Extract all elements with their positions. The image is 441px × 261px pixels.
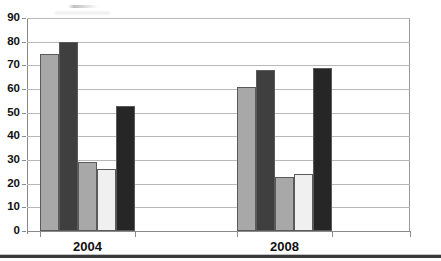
y-tick-label-60: 60 [0, 83, 20, 94]
bar-2004-series-2 [59, 42, 78, 231]
page-bottom-edge [0, 255, 441, 258]
scan-artifact-smudge [68, 5, 98, 8]
y-tick-mark-70 [22, 65, 26, 66]
y-tick-mark-90 [22, 18, 26, 19]
y-tick-mark-40 [22, 136, 26, 137]
y-tick-label-30: 30 [0, 154, 20, 165]
bar-2008-series-1 [237, 87, 256, 231]
gridline-30 [27, 160, 410, 161]
bar-2004-series-4 [97, 169, 116, 231]
bar-2008-series-3 [275, 177, 294, 231]
y-tick-mark-50 [22, 113, 26, 114]
bar-2004-series-1 [40, 54, 59, 232]
chart-screenshot: 9080706050403020100 20042008 [0, 0, 441, 261]
bar-2004-series-5 [116, 106, 135, 231]
plot-area [27, 18, 410, 231]
scan-artifact-line [55, 12, 110, 14]
x-tick-mark-axis-end [410, 232, 411, 237]
y-tick-label-50: 50 [0, 107, 20, 118]
y-tick-label-70: 70 [0, 59, 20, 70]
y-axis-labels: 9080706050403020100 [0, 0, 20, 261]
y-tick-mark-10 [22, 207, 26, 208]
x-axis-label-2008: 2008 [217, 239, 352, 254]
x-tick-mark-2008-end [332, 232, 333, 237]
x-tick-mark-2008-start [237, 232, 238, 237]
x-tick-mark-2004-end [135, 232, 136, 237]
x-tick-mark-2004-start [40, 232, 41, 237]
y-tick-label-40: 40 [0, 130, 20, 141]
bar-2008-series-5 [313, 68, 332, 231]
y-tick-mark-0 [22, 231, 26, 232]
gridline-70 [27, 65, 410, 66]
gridline-90 [27, 18, 410, 19]
x-axis-label-2004: 2004 [20, 239, 155, 254]
y-tick-mark-60 [22, 89, 26, 90]
y-tick-mark-80 [22, 42, 26, 43]
bar-2004-series-3 [78, 162, 97, 231]
x-axis-line [27, 231, 411, 232]
gridline-60 [27, 89, 410, 90]
gridline-80 [27, 42, 410, 43]
y-tick-label-20: 20 [0, 178, 20, 189]
y-tick-mark-30 [22, 160, 26, 161]
y-tick-mark-20 [22, 184, 26, 185]
y-tick-label-80: 80 [0, 36, 20, 47]
y-tick-label-10: 10 [0, 201, 20, 212]
bar-2008-series-2 [256, 70, 275, 231]
y-tick-label-90: 90 [0, 12, 20, 23]
y-tick-label-0: 0 [0, 225, 20, 236]
plot-frame-right-edge [409, 18, 410, 231]
gridline-50 [27, 113, 410, 114]
gridline-40 [27, 136, 410, 137]
bar-2008-series-4 [294, 174, 313, 231]
